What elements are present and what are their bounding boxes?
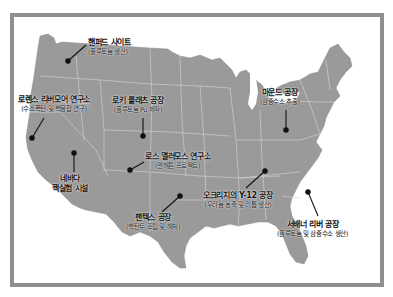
site-desc: 핵실험 시설 xyxy=(52,185,88,193)
site-desc: (플루토늄 Pu 제작) xyxy=(112,107,164,114)
marker-hanford[interactable] xyxy=(66,59,70,63)
site-name: 로키 플래츠 공장 xyxy=(112,97,164,105)
label-livermore: 로렌스 리버모어 연구소 (수소폭탄 및 핵융합 연구) xyxy=(18,96,90,113)
marker-los-alamos[interactable] xyxy=(128,168,132,172)
site-name: 네바다 xyxy=(52,175,88,183)
marker-livermore[interactable] xyxy=(30,136,34,140)
site-name: 로스 앨러모스 연구소 xyxy=(145,153,210,161)
marker-savannah-river[interactable] xyxy=(306,190,310,194)
site-desc: (플루토늄 및 삼중수소 생산) xyxy=(277,231,348,238)
label-oak-ridge: 오크리지의 Y-12 공장 (우라늄 농축 및 리튬 생산) xyxy=(203,192,273,209)
site-name: 핸퍼드 사이트 xyxy=(88,39,131,47)
label-mound: 마운드 공장 (삼중수소 추출) xyxy=(260,89,300,106)
label-nevada: 네바다 핵실험 시설 xyxy=(52,175,88,193)
marker-oak-ridge[interactable] xyxy=(263,169,267,173)
label-pantex: 팬텍스 공장 (핵탄두 조립 및 해체) xyxy=(126,214,180,231)
leader-savannah-river xyxy=(308,192,318,216)
site-desc: (삼중수소 추출) xyxy=(260,99,300,106)
site-name: 팬텍스 공장 xyxy=(126,214,180,222)
site-desc: (수소폭탄 및 핵융합 연구) xyxy=(18,106,90,113)
site-name: 서배너 리버 공장 xyxy=(277,221,348,229)
marker-rocky-flats[interactable] xyxy=(141,134,145,138)
site-desc: (핵탄두 조립 및 해체) xyxy=(126,224,180,231)
site-desc: (우라늄 농축 및 리튬 생산) xyxy=(203,202,273,209)
label-los-alamos: 로스 앨러모스 연구소 (맨해튼 프로젝트) xyxy=(145,153,210,170)
site-name: 오크리지의 Y-12 공장 xyxy=(203,192,273,200)
marker-nevada[interactable] xyxy=(72,151,76,155)
us-map xyxy=(0,0,393,297)
marker-pantex[interactable] xyxy=(178,194,182,198)
site-desc: (플루토늄 생산) xyxy=(88,49,131,56)
label-rocky-flats: 로키 플래츠 공장 (플루토늄 Pu 제작) xyxy=(112,97,164,114)
lake-superior xyxy=(226,58,262,70)
site-name: 로렌스 리버모어 연구소 xyxy=(18,96,90,104)
site-desc: (맨해튼 프로젝트) xyxy=(145,163,210,170)
site-name: 마운드 공장 xyxy=(260,89,300,97)
label-hanford: 핸퍼드 사이트 (플루토늄 생산) xyxy=(88,39,131,56)
label-savannah-river: 서배너 리버 공장 (플루토늄 및 삼중수소 생산) xyxy=(277,221,348,238)
marker-mound[interactable] xyxy=(284,128,288,132)
